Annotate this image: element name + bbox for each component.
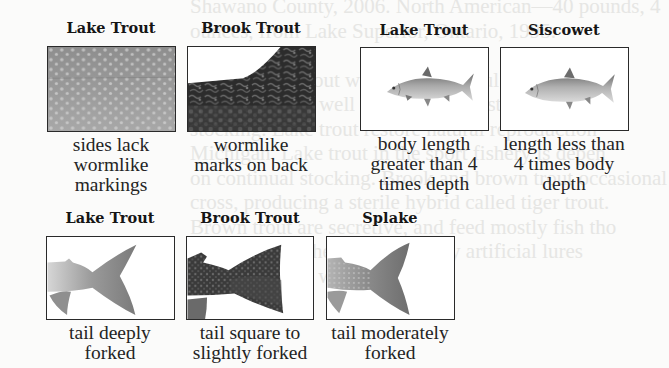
panel-lake-trout-body: Lake Trout body length greater than 4 ti… (343, 20, 505, 194)
panel-title: Brook Trout (169, 208, 331, 228)
panel-title: Lake Trout (29, 208, 191, 228)
fish-icon (501, 48, 628, 130)
panel-siscowet-body: Siscowet length less than 4 times body d… (483, 20, 645, 194)
panel-title: Lake Trout (30, 18, 192, 38)
panel-caption: body length greater than 4 times depth (343, 134, 505, 194)
wormlike-pattern-icon (188, 47, 315, 131)
square-tail-image (186, 236, 314, 320)
panel-caption: wormlike marks on back (170, 135, 332, 175)
vermiculated-back-pattern-image (187, 46, 316, 132)
panel-brook-trout-tail: Brook Trout tail square to slightly fork… (169, 208, 331, 363)
spotted-pattern-icon (48, 47, 175, 131)
ghost-line: Shawano County, 2006. North American—40 … (190, 0, 669, 19)
panel-title: Splake (309, 208, 471, 228)
forked-tail-icon (47, 237, 174, 319)
panel-title: Siscowet (483, 20, 645, 40)
panel-lake-trout-sides: Lake Trout sides lack wormlike markings (30, 18, 192, 195)
square-tail-icon (187, 237, 313, 319)
moderately-forked-tail-image (326, 236, 455, 320)
fish-icon (361, 48, 488, 130)
panel-brook-trout-back: Brook Trout wormlike mark (170, 18, 332, 175)
slender-fish-profile-image (360, 47, 489, 131)
deeply-forked-tail-image (46, 236, 175, 320)
panel-title: Lake Trout (343, 20, 505, 40)
panel-caption: length less than 4 times body depth (483, 134, 645, 194)
panel-caption: tail moderately forked (309, 323, 471, 363)
panel-splake-tail: Splake tail moderately forked (309, 208, 471, 363)
panel-caption: tail deeply forked (29, 323, 191, 363)
deep-fish-profile-image (500, 47, 629, 131)
panel-caption: sides lack wormlike markings (30, 135, 192, 195)
panel-lake-trout-tail: Lake Trout tail deeply forked (29, 208, 191, 363)
moderately-forked-tail-icon (327, 237, 454, 319)
panel-caption: tail square to slightly forked (169, 323, 331, 363)
panel-title: Brook Trout (170, 18, 332, 38)
spotted-side-pattern-image (47, 46, 176, 132)
